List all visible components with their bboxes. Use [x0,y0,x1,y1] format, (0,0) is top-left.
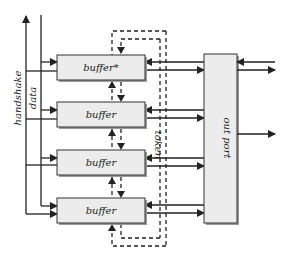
buffer-1: buffer [57,102,147,129]
buffer-label: buffer [86,205,118,216]
external-links [237,62,275,134]
data-bus [41,15,57,206]
buffer-0: buffer* [57,55,147,82]
buffer-label: buffer [86,157,118,168]
buffer-label: buffer* [83,62,119,73]
buffer-label: buffer [86,109,118,120]
buffer-2: buffer [57,150,147,177]
buffer-diagram: buffer* buffer buffer buffer out port ha… [0,0,288,260]
data-label: data [27,87,38,109]
out-port-label: out port [222,118,233,160]
buffer-3: buffer [57,198,147,225]
out-port: out port [204,54,239,225]
handshake-label: handshake [12,71,23,126]
token-label: token [153,131,164,159]
